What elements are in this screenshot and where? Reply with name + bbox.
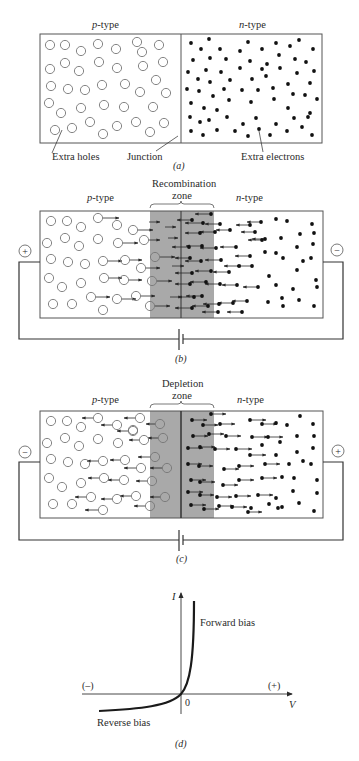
- minus-icon: −: [22, 447, 28, 458]
- electron: [222, 87, 226, 91]
- hole: [80, 459, 89, 468]
- electron: [308, 111, 312, 115]
- electron: [291, 287, 295, 291]
- electron: [266, 435, 270, 439]
- electron: [237, 464, 241, 468]
- iv-curve: [99, 601, 194, 711]
- hole: [128, 225, 137, 234]
- electron: [189, 129, 193, 133]
- electron: [315, 478, 319, 482]
- hole: [42, 438, 51, 447]
- hole: [138, 61, 147, 70]
- hole: [159, 118, 168, 127]
- electron: [263, 462, 267, 466]
- hole: [136, 463, 145, 472]
- minus-icon: −: [334, 245, 340, 256]
- electron: [197, 89, 201, 93]
- electron: [207, 432, 211, 436]
- hole: [131, 117, 140, 126]
- hole: [136, 263, 145, 272]
- electron: [260, 476, 264, 480]
- hole: [85, 117, 94, 126]
- p-type-label: p-type: [91, 394, 119, 405]
- electron: [209, 212, 213, 216]
- electron: [200, 244, 204, 248]
- electron: [186, 70, 190, 74]
- electron: [260, 47, 264, 51]
- forward-bias-label: Forward bias: [200, 617, 255, 628]
- hole: [46, 416, 55, 425]
- terminal-positive: +: [19, 245, 31, 257]
- electron: [292, 476, 296, 480]
- electron: [240, 88, 244, 92]
- reverse-bias-label: Reverse bias: [97, 717, 150, 728]
- electron: [298, 232, 302, 236]
- electron: [274, 496, 278, 500]
- electron: [228, 228, 232, 232]
- extra-holes-label: Extra holes: [52, 151, 100, 162]
- electron: [196, 77, 200, 81]
- electron: [285, 219, 289, 223]
- electron: [285, 423, 289, 427]
- electron: [286, 106, 290, 110]
- electron: [219, 258, 223, 262]
- negative-label: (–): [82, 680, 94, 692]
- hole: [48, 499, 57, 508]
- electron: [208, 56, 212, 60]
- electron: [306, 115, 310, 119]
- electron: [230, 505, 234, 509]
- electron: [186, 490, 190, 494]
- electron: [190, 218, 194, 222]
- electrons-group: [185, 37, 319, 138]
- electron: [287, 462, 291, 466]
- electron: [254, 116, 258, 120]
- hole: [120, 79, 129, 88]
- electron: [231, 301, 235, 305]
- electron: [218, 222, 222, 226]
- hole: [93, 413, 102, 422]
- hole: [42, 238, 51, 247]
- electron: [257, 127, 261, 131]
- electron: [260, 443, 264, 447]
- electron: [190, 306, 194, 310]
- electron: [198, 493, 202, 497]
- electron: [309, 256, 313, 260]
- zone-label-line1: Recombination: [152, 178, 217, 189]
- electron: [278, 440, 282, 444]
- hole: [113, 238, 122, 247]
- hole: [44, 473, 53, 482]
- electron: [276, 506, 280, 510]
- electron: [215, 128, 219, 132]
- electron: [304, 60, 308, 64]
- hole: [112, 494, 121, 503]
- hole: [45, 64, 54, 73]
- electron: [266, 300, 270, 304]
- hole: [99, 100, 108, 109]
- hole: [158, 57, 167, 66]
- electron: [219, 70, 223, 74]
- electron: [280, 296, 284, 300]
- electron: [250, 435, 254, 439]
- hole: [60, 433, 69, 442]
- panel-d-iv-graph: I V 0 (–) (+) Forward bias Reverse bias …: [82, 591, 297, 750]
- hole: [67, 299, 76, 308]
- electron: [293, 57, 297, 61]
- electron: [217, 504, 221, 508]
- electron: [241, 122, 245, 126]
- electron: [198, 445, 202, 449]
- hole: [74, 66, 83, 75]
- electron: [297, 298, 301, 302]
- electron: [256, 285, 260, 289]
- hole: [93, 39, 102, 48]
- electron: [246, 134, 250, 138]
- electron: [188, 282, 192, 286]
- electron: [224, 434, 228, 438]
- electron: [201, 423, 205, 427]
- electron: [218, 282, 222, 286]
- electron: [259, 220, 263, 224]
- electron: [234, 447, 238, 451]
- hole: [135, 87, 144, 96]
- hole: [76, 103, 85, 112]
- electron: [188, 256, 192, 260]
- origin-label: 0: [185, 697, 190, 708]
